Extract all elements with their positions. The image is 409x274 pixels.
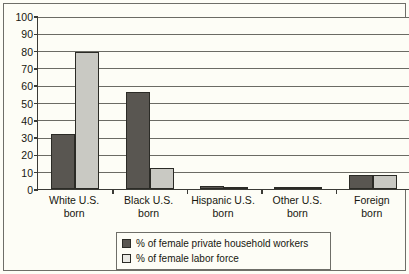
y-axis-tick — [34, 155, 38, 157]
bar-group — [200, 17, 248, 189]
y-axis-tick — [34, 103, 38, 105]
y-axis-tick — [34, 85, 38, 87]
legend-item: % of female labor force — [122, 251, 325, 266]
y-axis-tick-label: 100 — [7, 12, 33, 23]
y-axis-tick-label: 50 — [7, 98, 33, 109]
bar-chart-figure: 0102030405060708090100 White U.S. bornBl… — [0, 0, 409, 274]
x-axis-category-label: Other U.S. born — [260, 194, 334, 219]
bar — [298, 187, 322, 189]
bar — [224, 187, 248, 189]
y-axis-tick-label: 70 — [7, 64, 33, 75]
y-axis-tick-label: 0 — [7, 185, 33, 196]
x-axis-category-label: Hispanic U.S. born — [186, 194, 260, 219]
bar — [349, 175, 373, 189]
bar — [373, 175, 397, 189]
y-axis-tick — [34, 51, 38, 53]
bar — [51, 134, 75, 189]
plot-area — [37, 17, 409, 190]
dark-gray-swatch-icon — [122, 239, 131, 248]
bar — [150, 168, 174, 189]
y-axis-tick-label: 20 — [7, 150, 33, 161]
y-axis-tick-label: 60 — [7, 81, 33, 92]
y-axis-tick — [34, 189, 38, 191]
legend-item-label: % of female labor force — [136, 254, 239, 264]
bar-group — [349, 17, 397, 189]
bar — [75, 52, 99, 189]
bar — [274, 187, 298, 189]
x-axis-category-label: Foreign born — [335, 194, 409, 219]
x-axis-labels: White U.S. bornBlack U.S. bornHispanic U… — [37, 194, 409, 226]
y-axis-tick — [34, 172, 38, 174]
y-axis-tick-label: 80 — [7, 46, 33, 57]
y-axis-tick — [34, 16, 38, 18]
bar-group — [51, 17, 99, 189]
bar-group — [274, 17, 322, 189]
chart-frame: 0102030405060708090100 White U.S. bornBl… — [3, 3, 406, 271]
y-axis-tick — [34, 68, 38, 70]
y-axis-tick — [34, 137, 38, 139]
x-axis-category-label: White U.S. born — [37, 194, 111, 219]
y-axis-tick-label: 40 — [7, 116, 33, 127]
light-gray-swatch-icon — [122, 254, 131, 263]
y-axis-labels: 0102030405060708090100 — [4, 17, 33, 190]
y-axis-tick — [34, 34, 38, 36]
legend-item-label: % of female private household workers — [136, 239, 308, 249]
y-axis-tick-label: 10 — [7, 167, 33, 178]
bar — [200, 186, 224, 189]
bar — [126, 92, 150, 189]
y-axis-tick-label: 30 — [7, 133, 33, 144]
chart-legend: % of female private household workers % … — [116, 232, 331, 270]
bar-group — [126, 17, 174, 189]
x-axis-category-label: Black U.S. born — [111, 194, 185, 219]
legend-item: % of female private household workers — [122, 236, 325, 251]
y-axis-tick — [34, 120, 38, 122]
y-axis-tick-label: 90 — [7, 29, 33, 40]
